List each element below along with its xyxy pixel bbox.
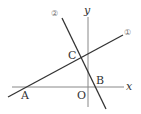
coordinate-diagram: x y O A B C ① ② (0, 0, 141, 114)
line-1 (8, 35, 123, 97)
y-axis-label: y (83, 4, 91, 17)
line-1-label: ① (124, 28, 131, 37)
origin-label: O (77, 89, 86, 102)
point-a-label: A (20, 89, 30, 102)
point-b-label: B (96, 74, 104, 87)
line-2-label: ② (51, 9, 58, 18)
x-axis-label: x (126, 80, 133, 93)
diagram-canvas: x y O A B C ① ② (0, 0, 141, 114)
point-c-label: C (68, 49, 76, 62)
